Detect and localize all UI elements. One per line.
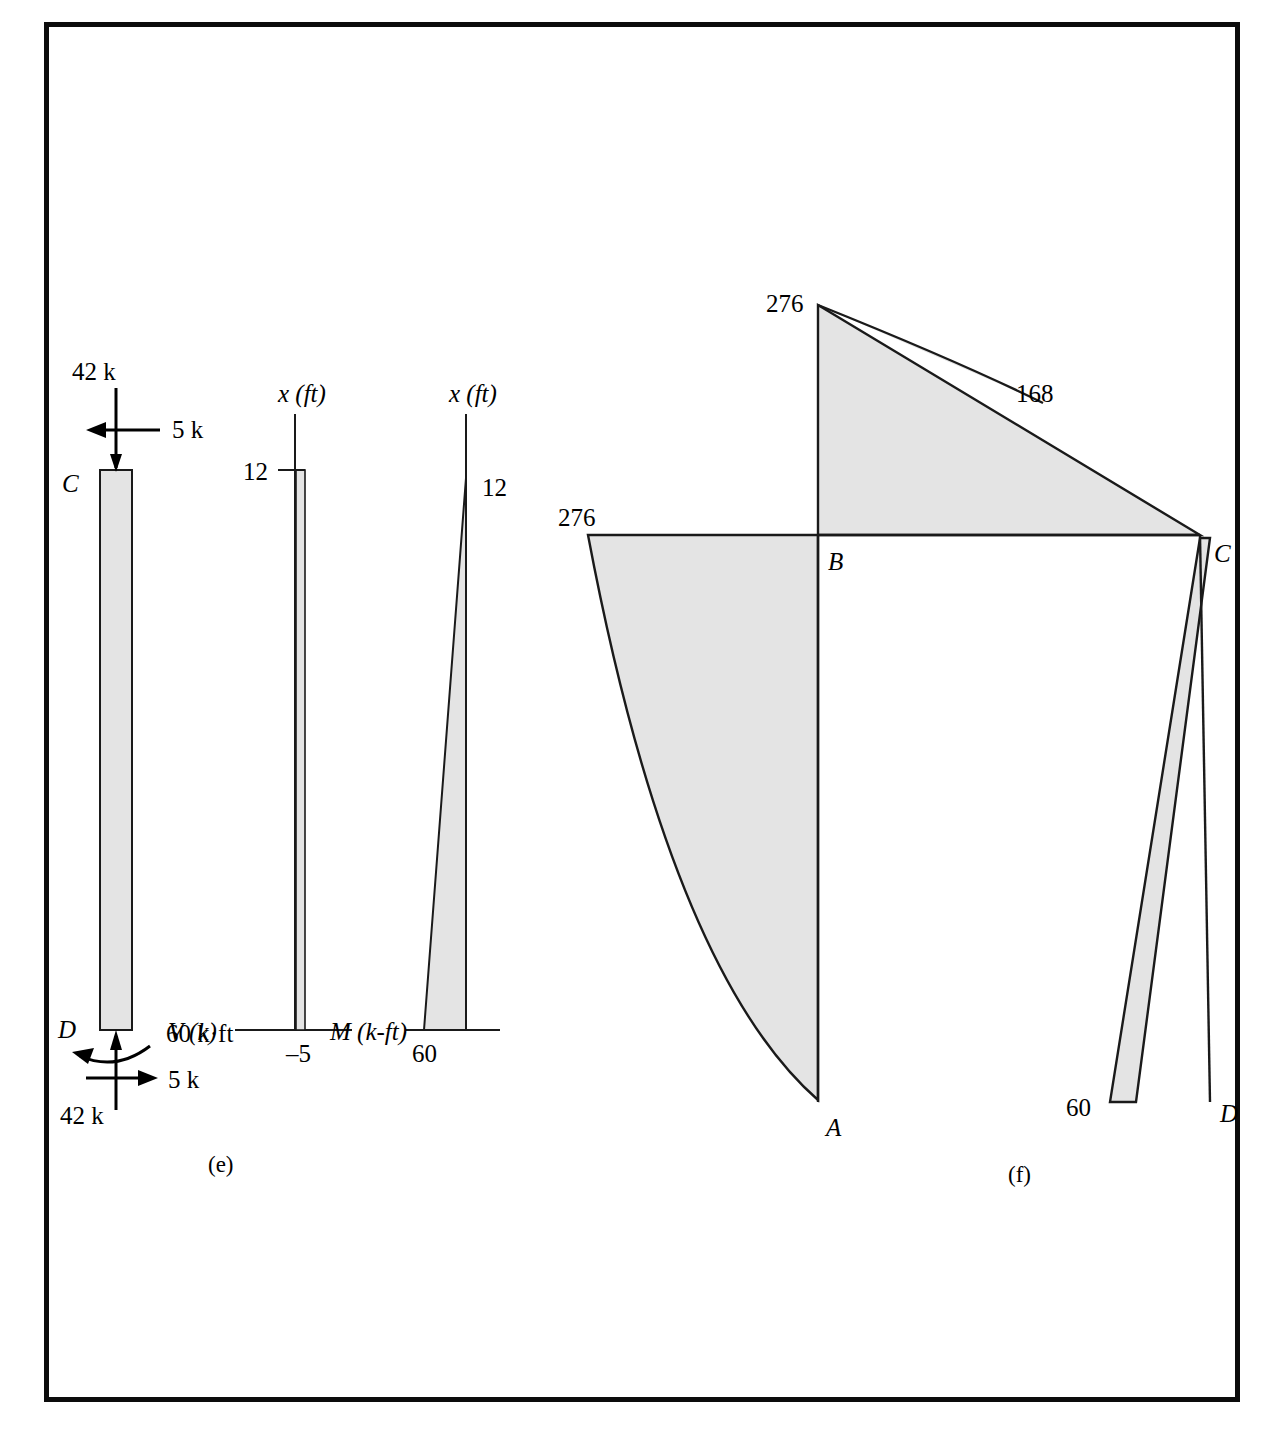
label-joint-a: A bbox=[824, 1114, 842, 1141]
moment-axis-x-label: x (ft) bbox=[448, 380, 497, 408]
label-bottom-axial-load: 42 k bbox=[60, 1102, 104, 1129]
moment-diagram-area bbox=[424, 478, 466, 1030]
left-column-moment-region bbox=[588, 535, 818, 1100]
shear-top-value: 12 bbox=[243, 458, 268, 485]
bottom-shear-arrowhead bbox=[138, 1070, 158, 1086]
value-left-column-top: 276 bbox=[766, 290, 804, 317]
label-top-shear-load: 5 k bbox=[172, 416, 204, 443]
moment-axis-m-label: M (k-ft) bbox=[329, 1018, 407, 1046]
caption-e: (e) bbox=[208, 1152, 234, 1177]
column-member-cd bbox=[100, 470, 132, 1030]
bottom-moment-arrowhead bbox=[72, 1048, 94, 1064]
value-beam-interior: 168 bbox=[1016, 380, 1054, 407]
shear-diagram-area bbox=[296, 470, 305, 1030]
frame-column-cd bbox=[1200, 535, 1210, 1102]
label-top-axial-load: 42 k bbox=[72, 358, 116, 385]
value-right-column-base: 60 bbox=[1066, 1094, 1091, 1121]
value-beam-left-end: 276 bbox=[558, 504, 596, 531]
label-joint-d: D bbox=[57, 1016, 76, 1043]
beam-moment-region bbox=[818, 305, 1200, 535]
panel-f: B C A D 276 276 168 60 (f) bbox=[520, 270, 1280, 1230]
moment-base-value: 60 bbox=[412, 1040, 437, 1067]
bottom-axial-arrowhead bbox=[110, 1030, 122, 1050]
right-column-moment-region bbox=[1110, 538, 1210, 1102]
caption-f: (f) bbox=[1008, 1162, 1031, 1187]
shear-axis-x-label: x (ft) bbox=[277, 380, 326, 408]
top-shear-arrowhead bbox=[86, 422, 106, 438]
shear-axis-v-label: V (k) bbox=[168, 1018, 217, 1046]
shear-base-value: –5 bbox=[285, 1040, 311, 1067]
label-joint-c: C bbox=[62, 470, 79, 497]
label-joint-b: B bbox=[828, 548, 843, 575]
label-bottom-shear-load: 5 k bbox=[168, 1066, 200, 1093]
label-joint-c: C bbox=[1214, 540, 1231, 567]
label-joint-d: D bbox=[1219, 1100, 1238, 1127]
moment-top-value: 12 bbox=[482, 474, 507, 501]
